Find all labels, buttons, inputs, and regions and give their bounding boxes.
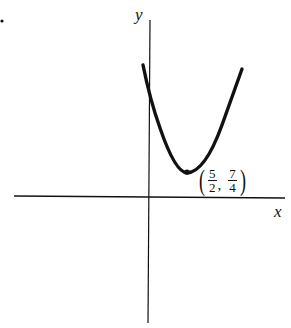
parabola-curve bbox=[143, 65, 242, 173]
close-paren: ) bbox=[240, 165, 246, 195]
graph-svg bbox=[0, 0, 291, 328]
y-axis-label: y bbox=[135, 6, 143, 23]
vertex-x-fraction: 5 2 bbox=[208, 167, 217, 194]
open-paren: ( bbox=[199, 165, 205, 195]
comma: , bbox=[218, 177, 222, 194]
vertex-y-fraction: 7 4 bbox=[228, 167, 237, 194]
x-axis-label: x bbox=[274, 203, 282, 220]
x-axis bbox=[14, 196, 285, 198]
vertex-point bbox=[184, 169, 189, 174]
y-axis bbox=[148, 20, 150, 323]
vertex-label: ( 5 2 , 7 4 ) bbox=[197, 165, 248, 195]
stray-mark bbox=[0, 19, 3, 22]
